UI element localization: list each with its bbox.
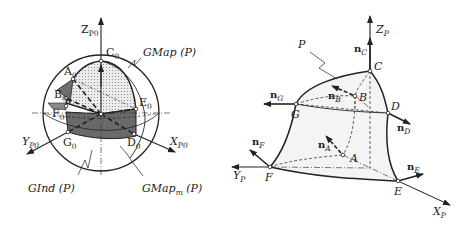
point-c-label: C [374,60,383,73]
point-a0-label: A0 [63,65,77,80]
gmapm-callout: GMapm (P) [142,182,202,197]
surface-p-label: P [297,38,306,51]
x-p-axis [398,181,450,205]
y-p0-label: YP0 [22,135,39,150]
diagram-canvas: ZP0 XP0 YP0 C0 A0 B0 F0 E0 G0 D0 GMap (P… [0,0,474,226]
normal-ne-label: nE [407,161,420,175]
normal-nd-label: nD [397,122,410,136]
point-d-label: D [390,100,400,113]
normal-ng-label: nG [270,89,283,103]
point-g0-label: G0 [63,136,77,151]
point-f-label: F [264,171,273,184]
point-a-label: A [349,152,358,165]
x-p-label: XP [432,205,447,220]
point-d0-label: D0 [127,136,141,151]
z-p0-label: ZP0 [81,23,99,38]
normal-nf-label: nF [252,136,265,150]
gmap-callout: GMap (P) [143,46,196,59]
gind-callout: GInd (P) [28,182,75,195]
z-p-label: ZP [375,23,390,38]
right-surface-figure: ZP XP YP P C G B D A F E nC nG nB nD nA … [232,16,450,220]
y-p-label: YP [233,169,246,184]
point-e0-label: E0 [139,96,152,111]
x-p0-label: XP0 [169,135,188,150]
point-g-label: G [291,108,300,121]
left-gauss-map-figure: ZP0 XP0 YP0 C0 A0 B0 F0 E0 G0 D0 GMap (P… [22,18,202,197]
normal-nc-label: nC [354,43,367,57]
point-e-label: E [393,185,402,198]
point-c0-label: C0 [106,46,119,61]
point-b-label: B [358,91,367,104]
